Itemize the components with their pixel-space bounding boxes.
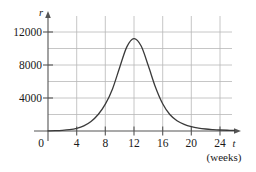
origin-label: 0 <box>38 137 44 149</box>
x-tick-label-16: 16 <box>157 137 169 149</box>
y-tick-label-4000: 4000 <box>19 92 42 104</box>
x-tick-label-8: 8 <box>102 137 108 149</box>
y-tick-label-12000: 12000 <box>13 26 42 38</box>
x-axis-label: t <box>233 138 237 149</box>
x-tick-label-12: 12 <box>128 137 140 149</box>
x-tick-label-24: 24 <box>214 137 226 149</box>
y-tick-label-8000: 8000 <box>19 59 42 71</box>
x-tick-label-4: 4 <box>74 137 80 149</box>
rate-curve-chart: 12000 8000 4000 0 4 8 12 16 20 24 r t (w… <box>0 0 256 172</box>
chart-figure: 12000 8000 4000 0 4 8 12 16 20 24 r t (w… <box>0 0 256 172</box>
y-axis-arrowhead <box>45 11 51 18</box>
x-tick-label-20: 20 <box>186 137 198 149</box>
x-axis-units-label: (weeks) <box>207 151 242 164</box>
x-axis-arrowhead <box>234 128 241 134</box>
rate-curve-path <box>48 39 234 131</box>
y-axis-label: r <box>39 7 44 18</box>
